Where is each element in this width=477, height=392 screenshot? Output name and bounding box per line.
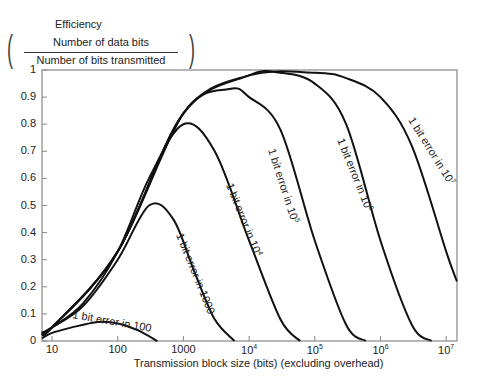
curve-label: 1 bit error in 106 (335, 136, 375, 213)
x-tick-label: 105 (295, 343, 335, 356)
y-tick-label: 1 (6, 63, 36, 75)
curves (42, 71, 457, 341)
plot-frame (42, 70, 457, 341)
x-tick-label: 107 (426, 343, 466, 356)
y-tick-label: 0.7 (6, 144, 36, 156)
curve-1e7 (42, 71, 457, 335)
y-tick-label: 0.9 (6, 90, 36, 102)
x-axis-title: Transmission block size (bits) (excludin… (0, 357, 477, 369)
y-tick-label: 0.6 (6, 171, 36, 183)
x-tick-label: 1000 (163, 343, 203, 355)
y-tick-label: 0.3 (6, 253, 36, 265)
x-tick-label: 10 (32, 343, 72, 355)
y-tick-label: 0.2 (6, 280, 36, 292)
y-tick-label: 0.8 (6, 117, 36, 129)
curve-label: 1 bit error in 104 (224, 181, 264, 258)
y-tick-label: 0.5 (6, 199, 36, 211)
y-tick-label: 0.4 (6, 226, 36, 238)
x-ticks (52, 336, 446, 341)
x-tick-label: 100 (98, 343, 138, 355)
x-tick-label: 104 (229, 343, 269, 356)
y-ticks (42, 70, 47, 341)
curve-label: 1 bit error in 1000 (174, 231, 217, 315)
y-tick-label: 0.1 (6, 307, 36, 319)
curve-label: 1 bit error in 105 (266, 147, 302, 225)
chart-plot: 1 bit error in 1001 bit error in 10001 b… (0, 0, 477, 392)
curve-label: 1 bit error in 100 (72, 308, 153, 334)
x-tick-label: 106 (361, 343, 401, 356)
